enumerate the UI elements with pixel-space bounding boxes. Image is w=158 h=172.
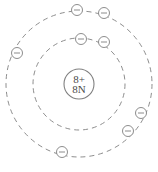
nucleus-group: 8+8N: [64, 69, 94, 99]
electron-e3: [72, 5, 83, 16]
nucleus-neutron-label: 8N: [72, 83, 86, 95]
electron-e1: [76, 34, 87, 45]
electron-e7: [123, 126, 134, 137]
electron-e2: [99, 37, 110, 48]
electron-e8: [57, 147, 68, 158]
atom-diagram-canvas: 8+8N: [0, 0, 158, 172]
electron-e6: [136, 108, 147, 119]
bohr-model-svg: 8+8N: [0, 0, 158, 172]
electron-e5: [12, 48, 23, 59]
electron-e4: [99, 8, 110, 19]
